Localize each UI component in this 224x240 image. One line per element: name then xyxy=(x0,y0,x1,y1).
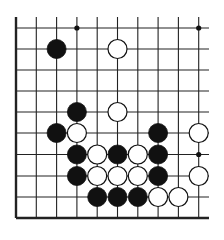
star-point xyxy=(196,152,201,157)
black-stone[interactable] xyxy=(67,103,86,122)
white-stone[interactable] xyxy=(88,167,107,186)
black-stone[interactable] xyxy=(47,124,66,143)
black-stone[interactable] xyxy=(128,188,147,207)
black-stone[interactable] xyxy=(47,40,66,59)
black-stone[interactable] xyxy=(149,167,168,186)
white-stone[interactable] xyxy=(128,167,147,186)
black-stone[interactable] xyxy=(88,188,107,207)
stones-layer xyxy=(47,40,208,207)
white-stone[interactable] xyxy=(189,124,208,143)
star-point xyxy=(74,25,79,30)
white-stone[interactable] xyxy=(108,167,127,186)
white-stone[interactable] xyxy=(169,188,188,207)
white-stone[interactable] xyxy=(149,188,168,207)
white-stone[interactable] xyxy=(108,40,127,59)
white-stone[interactable] xyxy=(88,145,107,164)
star-point xyxy=(196,25,201,30)
black-stone[interactable] xyxy=(108,145,127,164)
go-board xyxy=(0,0,224,240)
black-stone[interactable] xyxy=(67,167,86,186)
white-stone[interactable] xyxy=(108,103,127,122)
black-stone[interactable] xyxy=(67,145,86,164)
white-stone[interactable] xyxy=(67,124,86,143)
white-stone[interactable] xyxy=(189,167,208,186)
black-stone[interactable] xyxy=(149,145,168,164)
white-stone[interactable] xyxy=(128,145,147,164)
black-stone[interactable] xyxy=(149,124,168,143)
black-stone[interactable] xyxy=(108,188,127,207)
